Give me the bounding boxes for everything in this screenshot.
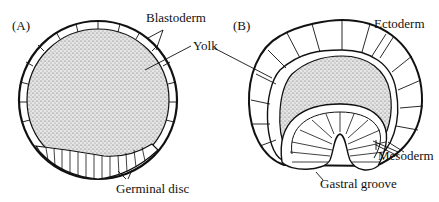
germinal-disc-label: Germinal disc [116, 181, 190, 196]
panel-a: (A) [12, 10, 218, 196]
ectoderm-label: Ectoderm [374, 16, 425, 31]
mesoderm-label: Mesoderm [378, 148, 434, 163]
gastral-groove-label: Gastral groove [320, 176, 397, 191]
panel-b: (B) [214, 16, 434, 191]
panel-b-label: (B) [233, 18, 250, 33]
yolk-label: Yolk [193, 38, 218, 53]
embryo-diagram: (A) [0, 0, 439, 202]
panel-a-label: (A) [12, 18, 30, 33]
blastoderm-label: Blastoderm [146, 10, 206, 25]
